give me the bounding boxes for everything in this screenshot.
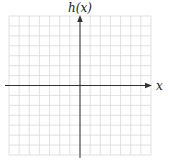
x-axis-label: x	[156, 79, 163, 93]
coordinate-plane: xh(x)	[0, 0, 169, 164]
y-axis-label: h(x)	[68, 1, 92, 15]
